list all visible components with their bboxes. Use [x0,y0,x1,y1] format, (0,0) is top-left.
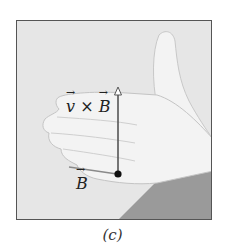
figure-caption: (c) [0,226,225,244]
field-label: B [76,174,88,193]
right-hand-illustration [17,21,212,220]
cross-symbol: × [80,97,93,116]
b-vector: B [99,97,111,116]
illustration-frame [16,20,212,220]
b-field-vector: B [76,174,88,193]
force-vector-arrowhead [115,87,122,95]
cross-product-label: v × B [66,97,110,116]
v-vector: v [66,97,75,116]
origin-dot [114,170,121,177]
